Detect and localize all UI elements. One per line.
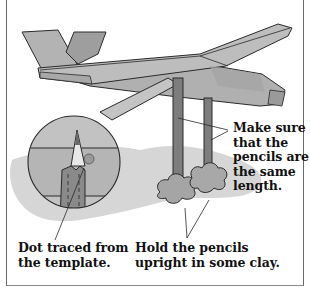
traced-dot	[84, 154, 94, 164]
callout-clay	[185, 200, 209, 238]
pencil-left	[173, 78, 183, 188]
label-hold-pencils: Hold the pencils upright in some clay.	[135, 241, 280, 270]
label-same-length: Make sure that the pencils are the same …	[233, 121, 309, 194]
callout-length	[178, 118, 228, 140]
nose	[268, 90, 285, 106]
label-dot-traced: Dot traced from the template.	[18, 241, 128, 270]
